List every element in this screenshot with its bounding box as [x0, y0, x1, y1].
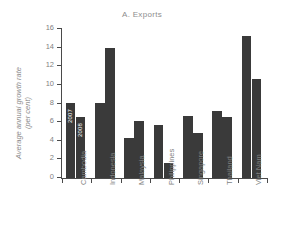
x-category-label: Philippines [167, 149, 176, 185]
y-tick-label: 14 [46, 42, 54, 51]
x-tick [121, 178, 122, 183]
x-tick [179, 178, 180, 183]
bar [242, 36, 252, 178]
bar [154, 125, 164, 178]
x-category-label: Cambodia [79, 151, 88, 185]
y-axis-title: Average annual growth rate (per cent) [14, 38, 32, 188]
x-tick [150, 178, 151, 183]
chart-figure: A. Exports Average annual growth rate (p… [0, 0, 284, 242]
bar [183, 116, 193, 178]
bar [212, 111, 222, 178]
y-tick-label: 6 [50, 116, 54, 125]
x-tick [62, 178, 63, 183]
x-tick [267, 178, 268, 183]
y-tick: 10 [57, 84, 62, 85]
y-tick-label: 16 [46, 23, 54, 32]
x-category-label: Singapore [196, 151, 205, 185]
y-tick: 6 [57, 121, 62, 122]
y-tick: 12 [57, 65, 62, 66]
x-category-label: Indonesia [108, 152, 117, 185]
x-category-label: Thailand [225, 156, 234, 185]
x-category-label: Malaysia [137, 155, 146, 185]
y-tick: 8 [57, 103, 62, 104]
y-tick-label: 10 [46, 79, 54, 88]
x-tick [238, 178, 239, 183]
plot-area: 0246810121416 20072008 [62, 29, 267, 178]
y-tick: 16 [57, 28, 62, 29]
x-tick [91, 178, 92, 183]
bar [124, 138, 134, 178]
y-tick: 2 [57, 158, 62, 159]
y-axis-line [61, 29, 62, 178]
y-tick-label: 8 [50, 98, 54, 107]
y-tick-label: 12 [46, 60, 54, 69]
x-tick [208, 178, 209, 183]
bar [95, 103, 105, 178]
y-tick-label: 2 [50, 153, 54, 162]
x-category-label: Viet Nam [254, 154, 263, 185]
y-tick-label: 4 [50, 135, 54, 144]
y-tick: 4 [57, 140, 62, 141]
bar [66, 103, 76, 178]
chart-title: A. Exports [0, 10, 284, 19]
y-tick: 14 [57, 47, 62, 48]
y-tick-label: 0 [50, 172, 54, 181]
